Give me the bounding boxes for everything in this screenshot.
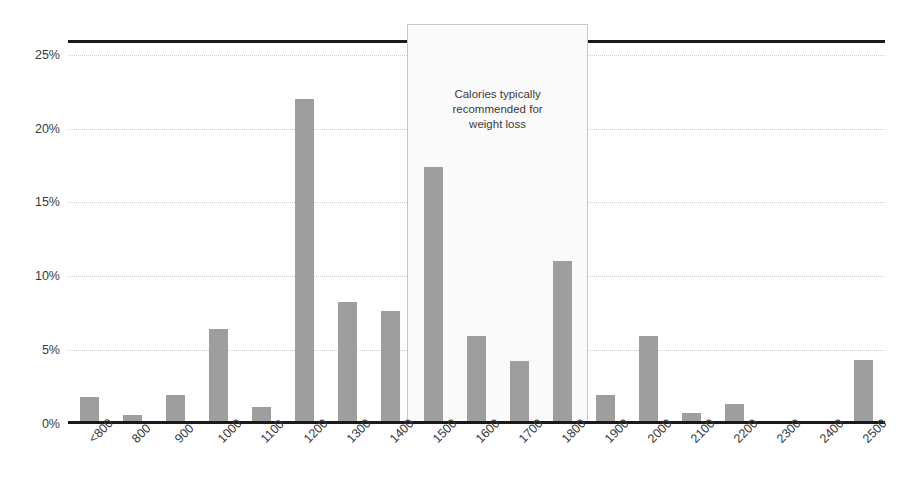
y-axis-tick-label: 5% (4, 343, 60, 357)
calorie-distribution-chart: 0%5%10%15%20%25% Calories typicallyrecom… (0, 0, 903, 486)
y-axis-tick-label: 25% (4, 48, 60, 62)
y-axis: 0%5%10%15%20%25% (0, 40, 60, 424)
x-axis-tick-label: 800 (129, 421, 154, 446)
x-axis-tick-label: 900 (172, 421, 197, 446)
x-axis-line (68, 421, 885, 424)
bar (596, 395, 616, 422)
bar (854, 360, 874, 422)
y-axis-tick-label: 0% (4, 417, 60, 431)
bar (639, 336, 659, 422)
bar (381, 311, 401, 422)
y-axis-tick-label: 10% (4, 269, 60, 283)
y-axis-tick-label: 20% (4, 122, 60, 136)
bar (467, 336, 487, 422)
bar (252, 407, 272, 422)
bar (725, 404, 745, 422)
y-axis-tick-label: 15% (4, 195, 60, 209)
bars (68, 40, 885, 424)
bar (553, 261, 573, 422)
bar (166, 395, 186, 422)
bar (424, 167, 444, 423)
bar (295, 99, 315, 422)
bar (510, 361, 530, 422)
x-axis: <800800900100011001200130014001500160017… (68, 430, 885, 486)
plot-area: Calories typicallyrecommended forweight … (68, 40, 885, 424)
bar (209, 329, 229, 422)
bar (80, 397, 100, 422)
bar (338, 302, 358, 422)
